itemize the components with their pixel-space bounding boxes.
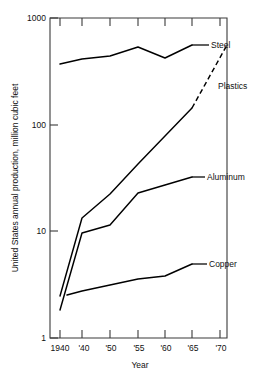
label-leaders: [192, 45, 209, 264]
plastics-curve: [60, 108, 192, 296]
y-axis-ticks: [50, 18, 58, 338]
y-tick-label-10: 10: [37, 226, 47, 236]
x-tick-label-60: '60: [160, 343, 171, 353]
bottom-axis-ticks: [60, 330, 220, 338]
chart-figure: 1000 100 10 1 1940 '40 '50 '55 '60 '65 '…: [0, 0, 274, 375]
series-copper: [67, 264, 192, 295]
series-label-copper: Copper: [209, 259, 237, 269]
aluminum-curve: [60, 177, 192, 310]
series-label-aluminum: Aluminum: [207, 172, 245, 182]
top-axis-ticks: [60, 18, 220, 26]
series-label-plastics: Plastics: [218, 81, 247, 91]
x-tick-labels: 1940 '40 '50 '55 '60 '65 '70: [51, 343, 227, 353]
y-tick-label-1000: 1000: [27, 13, 46, 23]
x-tick-label-70: '70: [215, 343, 226, 353]
steel-curve: [60, 45, 192, 64]
plastics-extrapolation: [192, 45, 227, 108]
x-axis-title: Year: [131, 360, 148, 370]
plot-frame: [50, 18, 227, 338]
copper-curve: [67, 264, 192, 295]
series-label-steel: Steel: [211, 40, 230, 50]
y-tick-label-100: 100: [32, 120, 46, 130]
x-tick-label-1940: 1940: [51, 343, 70, 353]
series-plastics: [60, 45, 227, 296]
series-steel: [60, 45, 192, 64]
chart-canvas: 1000 100 10 1 1940 '40 '50 '55 '60 '65 '…: [0, 0, 274, 375]
y-tick-labels: 1000 100 10 1: [27, 13, 46, 343]
x-tick-label-40: '40: [78, 343, 89, 353]
x-tick-label-55: '55: [133, 343, 144, 353]
x-tick-label-50: '50: [105, 343, 116, 353]
series-aluminum: [60, 177, 192, 310]
x-tick-label-65: '65: [187, 343, 198, 353]
y-axis-title: United States annual production, million…: [10, 83, 20, 272]
y-tick-label-1: 1: [41, 333, 46, 343]
